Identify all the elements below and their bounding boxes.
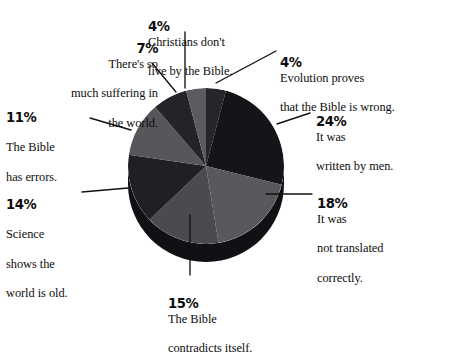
callout-label-written-by-men: 24% It was written by men. xyxy=(316,99,452,174)
callout-text-translated-line2: not translated xyxy=(317,241,383,255)
callout-label-science: 14% Science shows the world is old. xyxy=(6,182,128,301)
callout-text-translated-line1: It was xyxy=(317,212,347,226)
callout-text-evolution-line1: Evolution proves xyxy=(280,71,364,85)
callout-label-not-translated: 18% It was not translated correctly. xyxy=(317,181,451,285)
callout-label-contradicts: 15% The Bible contradicts itself. xyxy=(168,281,334,356)
callout-text-written-line2: written by men. xyxy=(316,159,393,173)
callout-percent-written: 24% xyxy=(316,114,346,129)
callout-text-contradicts-line2: contradicts itself. xyxy=(168,341,252,355)
callout-text-christians-line2: live by the Bible. xyxy=(148,64,232,78)
callout-text-christians-line1: Christians don't xyxy=(148,35,225,49)
callout-percent-errors: 11% xyxy=(6,110,36,125)
callout-text-contradicts-line1: The Bible xyxy=(168,312,217,326)
callout-text-science-line2: Science xyxy=(6,227,44,241)
callout-label-bible-errors: 11% The Bible has errors. xyxy=(6,95,134,185)
callout-percent-science: 14% xyxy=(6,197,36,212)
callout-percent-christians: 4% xyxy=(148,19,170,34)
callout-percent-evolution: 4% xyxy=(280,55,302,70)
callout-percent-translated: 18% xyxy=(317,196,347,211)
callout-text-science-line3: shows the xyxy=(6,257,55,271)
callout-text-written-line1: It was xyxy=(316,130,346,144)
callout-text-errors-line2: The Bible xyxy=(6,140,55,154)
callout-text-science-line4: world is old. xyxy=(6,286,68,300)
callout-percent-contradicts: 15% xyxy=(168,296,198,311)
